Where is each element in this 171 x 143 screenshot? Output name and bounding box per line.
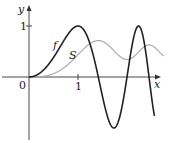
- series-S-label: S: [69, 50, 77, 61]
- x-tick-label-1: 1: [75, 81, 82, 92]
- x-axis-label: x: [154, 79, 160, 90]
- series-f-label: f: [53, 40, 57, 51]
- y-axis-arrow-icon: [27, 5, 32, 11]
- y-axis-label: y: [18, 4, 24, 15]
- y-tick-label-1: 1: [20, 21, 27, 32]
- origin-label: 0: [19, 80, 26, 91]
- fresnel-chart: y 1 0 1 x f S: [0, 0, 171, 143]
